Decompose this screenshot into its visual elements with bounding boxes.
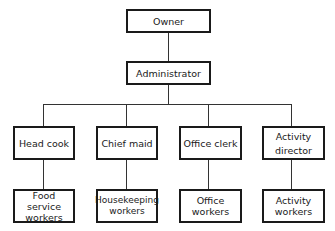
connector-owner-admin — [168, 32, 169, 61]
connector-bus-head-cook — [43, 104, 44, 126]
connector-bus-chief-maid — [126, 104, 127, 126]
node-food-service-workers: Food serviceworkers — [13, 189, 75, 223]
node-housekeeping-workers: Housekeepingworkers — [96, 189, 158, 223]
node-label: Activity — [275, 131, 312, 142]
node-activity-director: Activitydirector — [262, 126, 325, 160]
node-label: Owner — [153, 16, 184, 27]
connector-bus-office-clerk — [208, 104, 209, 126]
connector-head-cook-workers — [43, 159, 44, 189]
node-label: Administrator — [136, 68, 201, 79]
connector-bus — [43, 104, 292, 105]
node-activity-workers: Activityworkers — [262, 189, 325, 223]
node-label: Office clerk — [184, 138, 238, 149]
connector-bus-activity-director — [291, 104, 292, 126]
node-label: Activity — [275, 195, 312, 206]
node-label: Housekeeping — [95, 195, 159, 206]
node-office-workers: Officeworkers — [179, 189, 242, 223]
node-label: Head cook — [19, 138, 69, 149]
node-owner: Owner — [126, 9, 211, 33]
node-office-clerk: Office clerk — [179, 126, 242, 160]
node-administrator: Administrator — [126, 61, 211, 85]
node-head-cook: Head cook — [13, 126, 75, 160]
connector-admin-bus — [168, 84, 169, 104]
node-chief-maid: Chief maid — [96, 126, 158, 160]
connector-office-clerk-workers — [208, 159, 209, 189]
connector-chief-maid-workers — [126, 159, 127, 189]
node-label: Food service — [15, 190, 73, 212]
connector-activity-director-workers — [291, 159, 292, 189]
node-label: Chief maid — [101, 138, 152, 149]
node-label: Office — [192, 195, 229, 206]
